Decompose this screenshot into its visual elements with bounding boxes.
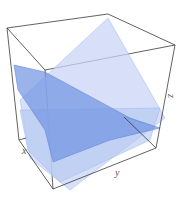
y-axis-label: y xyxy=(115,168,119,178)
planes xyxy=(14,18,165,190)
x-axis-label: x xyxy=(22,146,26,156)
z-axis-label: z xyxy=(166,94,176,98)
3d-plot xyxy=(0,0,188,200)
